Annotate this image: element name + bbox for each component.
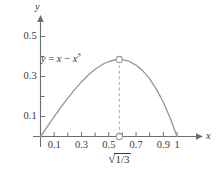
x-axis-root-marker [116,133,122,139]
y-axis-ticks [41,37,46,117]
x-axis-ticks [41,132,178,137]
y-axis-tick-label: 0.5 [24,31,37,42]
x-axis-tick-label: 1 [175,140,180,151]
radicand-denominator: 3 [124,153,130,165]
sqrt-one-third-annotation: √1/3 [108,152,130,165]
y-axis-tick-label: 0.3 [24,71,37,82]
y-axis-arrowhead [37,15,44,22]
radicand-fraction: 1/3 [114,153,130,165]
x-axis-label: x [206,131,211,142]
radical-group: √1/3 [108,152,130,165]
figure-canvas: y x y = x − x3 √1/3 0.10.30.50.70.91 0.1… [0,0,219,179]
y-axis-label: y [35,2,40,13]
radicand-numerator: 1 [115,153,121,165]
x-axis-arrowhead [196,133,203,140]
x-axis-tick-label: 0.3 [75,140,88,151]
x-axis-tick-label: 0.7 [130,140,143,151]
equation-term-2-exponent: 3 [77,51,81,59]
x-axis-tick-label: 0.5 [102,140,115,151]
y-axis [37,15,44,147]
y-axis-tick-label: 0.1 [24,111,37,122]
function-curve [41,60,178,137]
equation-annotation: y = x − x3 [41,52,81,64]
x-axis-tick-label: 0.9 [157,140,170,151]
x-axis-tick-label: 0.1 [48,140,61,151]
maximum-point-marker [116,56,122,62]
